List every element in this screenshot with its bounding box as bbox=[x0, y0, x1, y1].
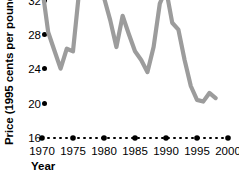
x-tick-dot bbox=[70, 135, 76, 141]
x-tick-label: 2000 bbox=[211, 144, 239, 158]
x-tick-dot bbox=[225, 135, 231, 141]
x-tick-label: 1980 bbox=[87, 144, 121, 158]
x-tick-dot bbox=[132, 135, 138, 141]
price-line-series bbox=[42, 0, 216, 102]
x-tick-label: 1970 bbox=[25, 144, 59, 158]
x-tick-dot bbox=[101, 135, 107, 141]
chart-figure: Price (1995 cents per pound) 32 28 24 20… bbox=[0, 0, 239, 177]
x-tick-dot bbox=[194, 135, 200, 141]
x-axis-label: Year bbox=[31, 159, 55, 173]
x-tick-dot bbox=[39, 135, 45, 141]
x-tick-label: 1995 bbox=[180, 144, 214, 158]
x-tick-label: 1985 bbox=[118, 144, 152, 158]
x-axis-tick-labels: 1970 1975 1980 1985 1990 1995 2000 bbox=[0, 144, 239, 160]
x-tick-label: 1975 bbox=[56, 144, 90, 158]
x-tick-label: 1990 bbox=[149, 144, 183, 158]
x-tick-dot bbox=[163, 135, 169, 141]
